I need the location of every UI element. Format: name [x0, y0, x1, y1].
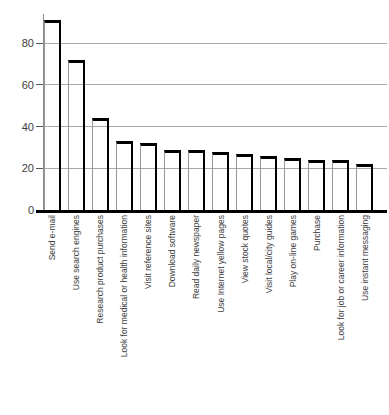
y-axis-tick-80 [36, 43, 43, 44]
y-axis-tick-40 [36, 126, 43, 127]
x-axis-label-13: Use instant messaging [359, 215, 371, 410]
bar-6 [188, 150, 205, 210]
x-axis-label-1: Use search engines [70, 215, 82, 410]
bar-1 [68, 60, 85, 210]
y-tick-label-80: 80 [0, 36, 34, 50]
y-tick-label-60: 60 [0, 78, 34, 92]
bar-5 [164, 150, 181, 210]
bar-8 [236, 154, 253, 210]
bar-12 [332, 160, 349, 210]
bar-3 [116, 141, 133, 210]
x-axis-label-5: Download software [166, 215, 178, 410]
x-axis-label-3: Look for medical or health information [118, 215, 130, 410]
bar-7 [212, 152, 229, 210]
x-axis-label-0: Send e-mail [46, 215, 58, 410]
y-axis-tick-60 [36, 84, 43, 85]
x-axis-label-2: Research product purchases [94, 215, 106, 410]
y-tick-label-0: 0 [0, 203, 34, 217]
bar-10 [284, 158, 301, 210]
bar-chart: 020406080 Send e-mailUse search enginesR… [0, 0, 389, 415]
x-axis-label-9: Visit local/city guides [263, 215, 275, 410]
bar-2 [92, 118, 109, 210]
gridline-60 [43, 84, 387, 85]
y-tick-label-20: 20 [0, 161, 34, 175]
x-axis-label-8: View stock quotes [239, 215, 251, 410]
bar-9 [260, 156, 277, 210]
bar-11 [308, 160, 325, 210]
x-axis-line [36, 210, 387, 213]
bar-0 [44, 20, 61, 210]
y-axis-tick-20 [36, 168, 43, 169]
x-axis-label-7: Use Internet yellow pages [215, 215, 227, 410]
bar-13 [356, 164, 373, 210]
gridline-80 [43, 43, 387, 44]
y-tick-label-40: 40 [0, 120, 34, 134]
x-axis-label-10: Play on-line games [287, 215, 299, 410]
bar-4 [140, 143, 157, 210]
x-axis-label-6: Read daily newspaper [190, 215, 202, 410]
x-axis-label-11: Purchase [311, 215, 323, 410]
x-axis-label-12: Look for job or career information [335, 215, 347, 410]
x-axis-label-4: Visit reference sites [142, 215, 154, 410]
